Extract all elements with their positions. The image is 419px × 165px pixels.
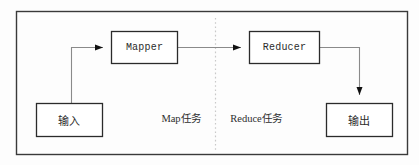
node-box-reducer[interactable] — [250, 32, 320, 64]
node-box-mapper[interactable] — [112, 32, 178, 64]
edge-reducer-to-output — [320, 48, 360, 96]
edge-input-to-mapper — [72, 48, 104, 104]
mapreduce-diagram-canvas: Mapper Reducer 输入 输出 Map任务 Reduce任务 — [0, 0, 419, 165]
diagram-vector-layer — [0, 0, 419, 165]
node-box-input[interactable] — [37, 104, 103, 137]
node-box-output[interactable] — [327, 104, 393, 137]
